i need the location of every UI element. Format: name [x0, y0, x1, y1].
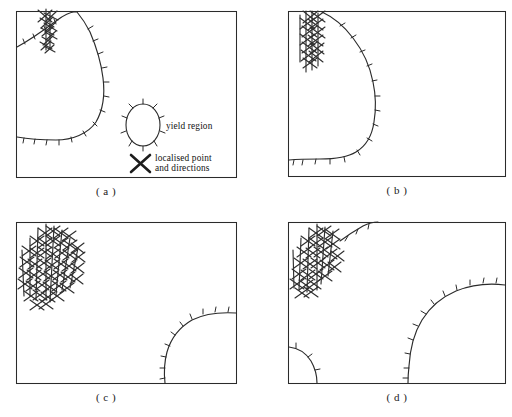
- panel-c-label: ( c ): [96, 391, 116, 404]
- legend-localised-label: localised point: [155, 153, 212, 163]
- panel-d-yield-lower-right: [408, 284, 505, 383]
- panel-d-localised-cluster: [290, 224, 344, 298]
- legend-localised-label2: and directions: [155, 163, 210, 173]
- panel-b-yield-boundary: [289, 12, 375, 160]
- panel-d-yield-lower-left-ticks: [296, 343, 320, 370]
- panel-d-yield-lower-right-ticks: [403, 278, 497, 378]
- panel-d-label: ( d ): [387, 391, 408, 404]
- panel-a-label: ( a ): [96, 185, 116, 198]
- panel-a: yield region localised point and directi…: [17, 9, 237, 198]
- panel-d-yield-upper: [340, 222, 378, 241]
- panel-a-yield-ticks: [23, 19, 109, 145]
- panel-d-yield-lower-left: [289, 347, 317, 383]
- panel-b-localised-cluster: [300, 11, 325, 72]
- panel-d: ( d ): [289, 222, 506, 404]
- panel-c: ( c ): [17, 223, 237, 405]
- panel-c-yield-boundary: [164, 313, 236, 383]
- panel-a-yield-boundary: [17, 12, 104, 140]
- panel-d-yield-upper-ticks: [345, 224, 369, 241]
- scientific-figure: yield region localised point and directi…: [0, 0, 512, 417]
- legend-yield-label: yield region: [166, 121, 213, 131]
- panel-c-localised-cluster: [18, 224, 85, 310]
- legend-yield-symbol: [121, 99, 165, 151]
- figure-root: yield region localised point and directi…: [0, 0, 512, 417]
- panel-b-label: ( b ): [387, 184, 408, 197]
- legend-localised-symbol: [131, 155, 150, 172]
- panel-a-localised-cluster: [38, 9, 58, 53]
- panel-b: ( b ): [289, 11, 506, 197]
